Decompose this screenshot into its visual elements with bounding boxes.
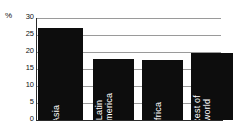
- y-tick-label-0: 0: [20, 115, 34, 123]
- x-axis-line: [36, 120, 223, 121]
- bar-asia[interactable]: Asia: [38, 28, 83, 120]
- y-axis-tick-labels: 30 25 20 15 10 5 0: [14, 0, 34, 134]
- bar-chart: % 30 25 20 15 10 5 0 Asia Latin America: [0, 0, 235, 134]
- y-tick-label-25: 25: [20, 30, 34, 38]
- bar-label-africa: Africa: [153, 102, 163, 126]
- gridline-30: [36, 18, 221, 19]
- bar-label-latin-america-line1: Latin: [94, 93, 104, 127]
- y-tick-label-5: 5: [20, 98, 34, 106]
- y-tick-label-20: 20: [20, 47, 34, 55]
- y-tick-label-15: 15: [20, 64, 34, 72]
- y-tick-label-30: 30: [20, 13, 34, 21]
- bar-label-latin-america: Latin America: [94, 93, 114, 127]
- bar-africa[interactable]: Africa: [142, 60, 183, 120]
- bar-latin-america[interactable]: Latin America: [93, 59, 134, 120]
- plot-area: Asia Latin America Africa Rest of world: [36, 18, 221, 120]
- y-tick-label-10: 10: [20, 81, 34, 89]
- bar-label-latin-america-line2: America: [104, 93, 114, 127]
- bar-rest-of-world[interactable]: Rest of world: [191, 53, 233, 120]
- bar-label-africa-line1: Africa: [153, 102, 163, 126]
- y-axis-unit-label: %: [5, 11, 12, 20]
- y-axis-line: [36, 18, 37, 121]
